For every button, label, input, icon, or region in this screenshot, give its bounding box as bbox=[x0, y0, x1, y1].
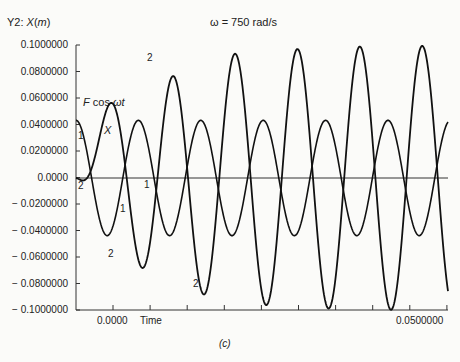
chart-plot bbox=[0, 0, 460, 362]
